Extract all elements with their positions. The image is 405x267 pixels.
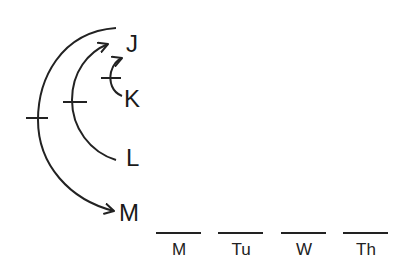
slot-blank-tue — [218, 232, 263, 234]
arrow-diagram — [0, 0, 405, 267]
slot-label-thu: Th — [344, 240, 388, 260]
slot-blank-thu — [343, 232, 388, 234]
element-label-l: L — [126, 146, 139, 170]
slot-blank-wed — [281, 232, 326, 234]
element-label-m: M — [119, 201, 139, 225]
element-label-j: J — [126, 32, 138, 56]
slot-label-mon: M — [157, 240, 201, 260]
slot-label-tue: Tu — [219, 240, 263, 260]
element-label-k: K — [124, 87, 140, 111]
slot-label-wed: W — [282, 240, 326, 260]
slot-blank-mon — [156, 232, 201, 234]
arrow-j-to-m — [38, 28, 116, 211]
